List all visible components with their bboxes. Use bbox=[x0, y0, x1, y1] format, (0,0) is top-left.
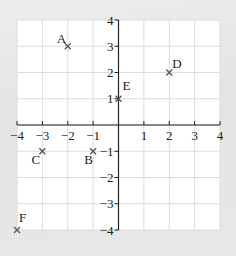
point-label: A bbox=[57, 31, 67, 46]
y-tick-label: −2 bbox=[100, 170, 114, 185]
y-tick-label: −3 bbox=[100, 196, 114, 211]
y-tick-label: 4 bbox=[107, 13, 114, 28]
x-tick-label: 1 bbox=[141, 128, 148, 143]
x-tick-label: 3 bbox=[191, 128, 198, 143]
point-label: D bbox=[172, 56, 181, 71]
x-tick-label: −4 bbox=[10, 128, 24, 143]
point-label: B bbox=[84, 152, 93, 167]
x-tick-label: −1 bbox=[86, 128, 100, 143]
figure: −4−3−2−112344321−1−2−3−4 ABCDEF bbox=[0, 0, 236, 256]
x-tick-label: 2 bbox=[166, 128, 173, 143]
point-label: F bbox=[19, 210, 26, 225]
y-tick-label: −1 bbox=[100, 144, 114, 159]
y-tick-label: −4 bbox=[100, 223, 114, 238]
y-tick-label: 2 bbox=[107, 65, 114, 80]
coordinate-grid: −4−3−2−112344321−1−2−3−4 ABCDEF bbox=[0, 0, 236, 256]
y-tick-label: 1 bbox=[107, 91, 114, 106]
point-label: E bbox=[123, 78, 131, 93]
point-label: C bbox=[31, 152, 40, 167]
y-tick-label: 3 bbox=[107, 39, 114, 54]
x-tick-label: −2 bbox=[61, 128, 75, 143]
x-tick-label: −3 bbox=[35, 128, 49, 143]
x-tick-label: 4 bbox=[217, 128, 224, 143]
